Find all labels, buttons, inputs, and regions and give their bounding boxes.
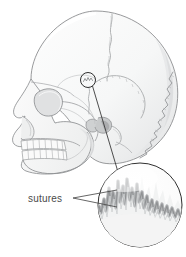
eye-socket (34, 89, 62, 116)
upper-teeth-row (21, 140, 66, 151)
skull-sutures-figure: sutures (0, 0, 186, 257)
skull-illustration: sutures (0, 0, 186, 257)
sutures-label: sutures (28, 193, 62, 204)
lower-teeth-row (22, 150, 67, 161)
